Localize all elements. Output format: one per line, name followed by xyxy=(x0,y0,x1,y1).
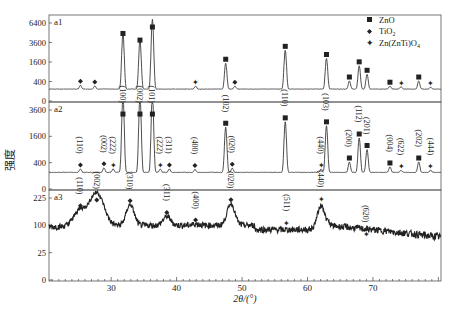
zno-marker-icon xyxy=(324,52,329,57)
hkl-label: (020) xyxy=(226,171,235,189)
y-axis-label: 强度 xyxy=(3,149,16,171)
hkl-label: (444) xyxy=(426,138,435,156)
hkl-label: (112) xyxy=(354,106,363,123)
y-tick-label: 25 xyxy=(38,248,47,258)
y-tick-label: 3600 xyxy=(29,105,46,115)
zno-marker-icon xyxy=(365,143,370,148)
hkl-label: (202) xyxy=(414,130,423,148)
y-tick-label: 400 xyxy=(33,77,46,87)
znzntio4-marker-icon: ✦ xyxy=(398,162,405,171)
znzntio4-marker-icon: ✦ xyxy=(192,78,199,87)
znzntio4-marker-icon: ✦ xyxy=(283,219,290,228)
x-axis-label: 2θ/(°) xyxy=(233,293,257,305)
hkl-label: (002) xyxy=(99,135,108,153)
y-tick-label: 225 xyxy=(33,193,46,203)
hkl-label: (440) xyxy=(316,137,325,155)
y-tick-label: 1600 xyxy=(29,57,46,67)
x-tick-label: 70 xyxy=(368,283,378,293)
zno-marker-icon xyxy=(365,68,370,73)
legend: ZnO TiO2 ✦ Zn(ZnTi)O4 xyxy=(366,15,420,49)
hkl-label: (002) xyxy=(92,172,101,190)
zno-marker-icon xyxy=(120,31,125,36)
zno-marker-icon xyxy=(137,38,142,43)
tio2-marker-icon xyxy=(78,163,83,168)
tio2-marker-icon xyxy=(192,163,197,168)
znzntio4-marker-icon: ✦ xyxy=(318,161,325,170)
zno-marker-icon xyxy=(357,59,362,64)
znzntio4-marker-icon: ✦ xyxy=(110,161,117,170)
hkl-label: (511) xyxy=(282,194,291,211)
hkl-label: (222) xyxy=(155,137,164,155)
zno-marker-icon xyxy=(150,112,155,117)
legend-zno: ZnO xyxy=(379,15,395,25)
legend-tio2: TiO2 xyxy=(379,26,395,37)
znzntio4-marker-icon: ✦ xyxy=(318,195,325,204)
y-tick-label: 6400 xyxy=(29,18,46,28)
hkl-label: (310) xyxy=(125,172,134,190)
tio2-marker-icon xyxy=(92,79,97,84)
hkl-label: (620) xyxy=(361,205,370,223)
znzntio4-marker-icon: ✦ xyxy=(427,162,434,171)
znzntio4-marker-icon: ✦ xyxy=(398,79,405,88)
zno-marker-icon xyxy=(416,156,421,161)
zno-marker-icon xyxy=(324,119,329,124)
tio2-marker-icon xyxy=(230,162,235,167)
zno-marker-icon xyxy=(150,25,155,30)
x-tick-label: 40 xyxy=(172,283,182,293)
tio2-marker-icon xyxy=(193,217,198,222)
hkl-label: (002) xyxy=(135,86,144,104)
hkl-label: (222) xyxy=(108,137,117,155)
zno-marker-icon xyxy=(387,80,392,85)
xrd-profile-a3 xyxy=(49,191,441,240)
hkl-label: (400) xyxy=(190,137,199,155)
zno-marker-icon xyxy=(120,112,125,117)
zno-marker-icon xyxy=(283,44,288,49)
xrd-chart: 0400160036006400a1✦✦✦040016003600a2(110)… xyxy=(0,0,452,315)
tio2-marker-icon xyxy=(167,163,172,168)
panel-a3: 025100225a3(110)(002)(310)(311)(400)(020… xyxy=(33,170,441,285)
y-tick-label: 100 xyxy=(33,220,46,230)
hkl-label: (311) xyxy=(162,184,171,201)
hkl-label: (400) xyxy=(191,191,200,209)
znzntio4-marker-icon: ✦ xyxy=(157,161,164,170)
legend-znzntio4: Zn(ZnTi)O4 xyxy=(379,38,420,49)
hkl-label: (100) xyxy=(118,86,127,104)
tio2-marker-icon xyxy=(101,161,106,166)
zno-marker-icon xyxy=(347,75,352,80)
zno-marker-icon xyxy=(347,156,352,161)
y-tick-label: 3600 xyxy=(29,38,46,48)
znzntio4-marker-icon: ✦ xyxy=(427,79,434,88)
panel-label-a2: a2 xyxy=(54,104,63,114)
zno-marker-icon xyxy=(357,132,362,137)
x-tick-label: 50 xyxy=(238,283,248,293)
hkl-label: (110) xyxy=(75,137,84,154)
tio2-diamond-icon xyxy=(367,29,372,34)
hkl-label: (102) xyxy=(221,95,230,113)
tio2-marker-icon xyxy=(128,198,133,203)
y-tick-label: 0 xyxy=(42,275,46,285)
znzntio4-marker-icon: ✦ xyxy=(363,230,370,239)
tio2-marker-icon xyxy=(228,197,233,202)
tio2-marker-icon xyxy=(94,198,99,203)
zno-marker-icon xyxy=(223,57,228,62)
x-axis: 3040506070 xyxy=(52,277,438,293)
hkl-label: (110) xyxy=(280,89,289,106)
znzntio4-star-icon: ✦ xyxy=(366,38,374,48)
x-tick-label: 30 xyxy=(107,283,117,293)
hkl-label: (103) xyxy=(321,93,330,111)
hkl-label: (622) xyxy=(396,138,405,156)
hkl-label: (020) xyxy=(227,136,236,154)
hkl-label: (110) xyxy=(75,177,84,194)
panel-label-a1: a1 xyxy=(54,17,63,27)
hkl-label: (311) xyxy=(164,137,173,154)
panel-label-a3: a3 xyxy=(54,192,63,202)
y-tick-label: 400 xyxy=(33,158,46,168)
tio2-marker-icon xyxy=(232,80,237,85)
hkl-label: (201) xyxy=(362,117,371,135)
zno-square-icon xyxy=(367,17,372,22)
panel-frame xyxy=(49,190,441,281)
tio2-marker-icon xyxy=(78,79,83,84)
y-tick-label: 1600 xyxy=(29,131,46,141)
hkl-label: (200) xyxy=(344,130,353,148)
zno-marker-icon xyxy=(137,112,142,117)
